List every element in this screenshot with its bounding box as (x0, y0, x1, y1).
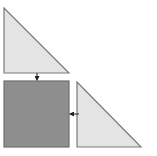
top-triangle (4, 8, 69, 73)
right-triangle (77, 82, 141, 147)
diagram-canvas (0, 0, 157, 156)
square (4, 81, 69, 147)
